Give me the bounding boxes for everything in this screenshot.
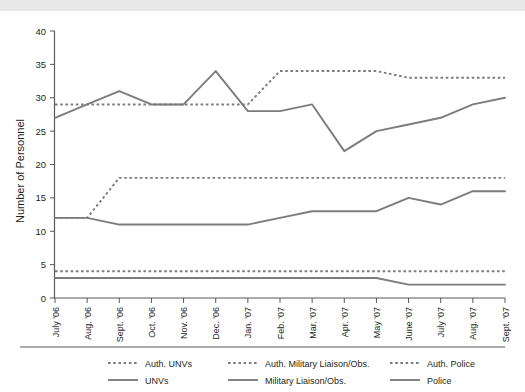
y-tick-label: 0	[41, 293, 46, 304]
x-tick-label: Jan. '07	[243, 307, 253, 338]
y-tick-label: 10	[35, 226, 46, 237]
y-tick-label: 30	[35, 92, 46, 103]
data-series-group	[55, 71, 505, 285]
top-gray-strip	[0, 0, 525, 11]
x-axis-ticks: July '06Aug. '06Sept. '06Oct. '06Nov. '0…	[51, 298, 511, 342]
legend-label: Military Liaison/Obs.	[265, 376, 346, 386]
x-tick-label: July '06	[51, 307, 61, 337]
x-tick-label: July '07	[436, 307, 446, 337]
series-line	[55, 191, 505, 224]
x-tick-label: Oct. '06	[147, 307, 157, 338]
screenshot-root: Number of Personnel 0510152025303540 Jul…	[0, 0, 525, 392]
y-axis-title: Number of Personnel	[14, 119, 26, 223]
y-tick-label: 5	[41, 259, 46, 270]
series-line	[55, 71, 505, 151]
legend-label: Auth. UNVs	[145, 359, 193, 369]
y-tick-label: 25	[35, 126, 46, 137]
x-tick-label: Mar. '07	[308, 307, 318, 339]
x-tick-label: Aug. '06	[83, 307, 93, 340]
x-tick-label: May '07	[372, 307, 382, 338]
x-tick-label: Dec. '06	[211, 307, 221, 340]
x-tick-label: Feb. '07	[276, 307, 286, 339]
y-tick-label: 20	[35, 159, 46, 170]
chart-figure: Number of Personnel 0510152025303540 Jul…	[0, 11, 525, 392]
x-tick-label: Apr. '07	[340, 307, 350, 337]
x-tick-label: Sept. '07	[501, 307, 511, 342]
y-tick-label: 35	[35, 59, 46, 70]
legend-label: Police	[427, 376, 452, 386]
y-axis-ticks: 0510152025303540	[35, 26, 55, 304]
legend-label: UNVs	[145, 376, 169, 386]
x-tick-label: Aug. '07	[468, 307, 478, 340]
x-tick-label: Sept. '06	[115, 307, 125, 342]
y-tick-label: 15	[35, 192, 46, 203]
series-line	[55, 71, 505, 104]
x-tick-label: June '07	[404, 307, 414, 341]
series-line	[55, 178, 505, 218]
x-tick-label: Nov. '06	[179, 307, 189, 339]
y-tick-label: 40	[35, 26, 46, 37]
line-chart: Number of Personnel 0510152025303540 Jul…	[0, 11, 525, 392]
series-line	[55, 278, 505, 285]
legend-label: Auth. Military Liaison/Obs.	[265, 359, 370, 369]
legend-label: Auth. Police	[427, 359, 475, 369]
chart-legend: Auth. UNVsAuth. Military Liaison/Obs.Aut…	[108, 359, 475, 386]
